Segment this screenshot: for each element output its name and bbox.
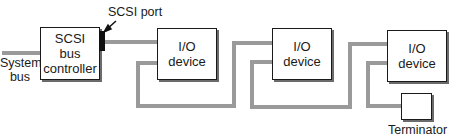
terminator-label: Terminator <box>388 123 447 137</box>
system-bus-label-line1: System <box>0 56 40 70</box>
device-label-line1: I/O <box>293 39 310 54</box>
controller-label-line2: bus <box>60 46 81 61</box>
scsi-port <box>99 31 105 51</box>
controller-label-line3: controller <box>43 61 96 76</box>
io-device-3: I/O device <box>387 30 447 82</box>
port-arrow-icon <box>104 21 116 32</box>
device-label-line2: device <box>168 54 206 69</box>
terminator <box>401 93 432 120</box>
io-device-1: I/O device <box>157 28 217 80</box>
scsi-port-label: SCSI port <box>108 5 162 19</box>
scsi-bus-controller: SCSI bus controller <box>40 27 100 80</box>
io-device-2: I/O device <box>272 28 332 80</box>
device-label-line2: device <box>283 54 321 69</box>
device-label-line1: I/O <box>178 39 195 54</box>
system-bus-label: System bus <box>0 56 40 84</box>
system-bus-label-line2: bus <box>0 70 40 84</box>
device-label-line1: I/O <box>408 41 425 56</box>
controller-label-line1: SCSI <box>55 31 85 46</box>
device-label-line2: device <box>398 56 436 71</box>
